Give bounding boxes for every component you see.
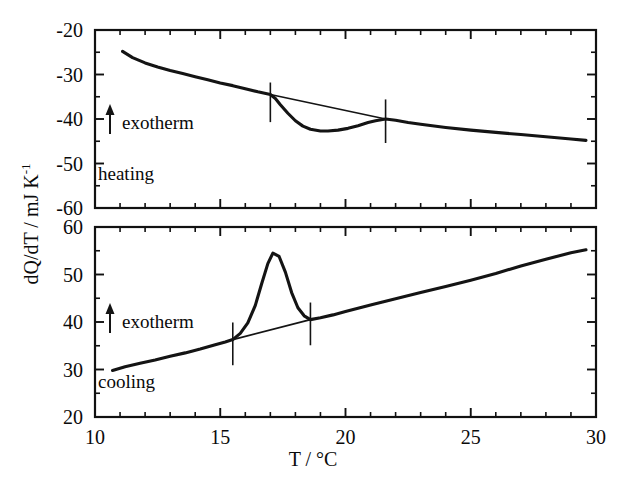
y-tick-label: -30 (56, 64, 83, 86)
y-tick-label: -20 (56, 19, 83, 41)
y-tick-label: 50 (63, 264, 83, 286)
upper-panel: -20-30-40-50-60 exotherm heating (56, 19, 596, 219)
y-tick-label: 60 (63, 216, 83, 238)
y-tick-label: 40 (63, 311, 83, 333)
y-tick-label: 30 (63, 359, 83, 381)
lower-exotherm-label: exotherm (122, 311, 194, 332)
y-tick-label: 20 (63, 406, 83, 428)
x-tick-label: 10 (85, 426, 105, 448)
lower-y-tick-labels: 6050403020 (63, 216, 83, 428)
y-tick-label: -40 (56, 108, 83, 130)
y-axis-label-main: dQ/dT / mJ K-1 (18, 163, 42, 284)
plot-canvas: -20-30-40-50-60 exotherm heating 6050403… (0, 0, 625, 479)
x-tick-label: 25 (461, 426, 481, 448)
y-tick-label: -50 (56, 153, 83, 175)
upper-exotherm-label: exotherm (122, 112, 194, 133)
x-tick-label: 20 (336, 426, 356, 448)
upper-mode-label: heating (98, 163, 154, 184)
lower-mode-label: cooling (98, 371, 155, 392)
lower-marker-lines (233, 303, 311, 366)
upper-y-tick-labels: -20-30-40-50-60 (56, 19, 83, 219)
upper-exotherm-arrow-icon (106, 104, 115, 134)
x-tick-labels: 1015202530 (85, 426, 606, 448)
dsc-thermogram-figure: -20-30-40-50-60 exotherm heating 6050403… (0, 0, 625, 479)
x-axis-label: T / °C (289, 448, 338, 470)
lower-exotherm-arrow-icon (106, 303, 115, 333)
x-tick-label: 15 (210, 426, 230, 448)
lower-panel: 6050403020 1015202530 exotherm cooling (63, 216, 606, 448)
upper-baseline-tangent (270, 95, 385, 119)
y-axis-label: dQ/dT / mJ K-1 (18, 163, 42, 284)
x-tick-label: 30 (586, 426, 606, 448)
